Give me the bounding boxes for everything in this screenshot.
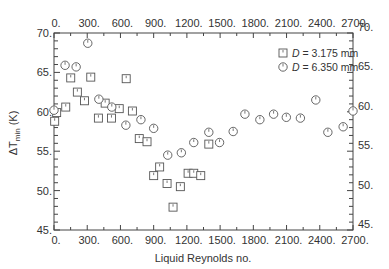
legend-item-circle: D = 6.350 mm <box>279 61 359 73</box>
svg-text:D = 6.350 mm: D = 6.350 mm <box>292 61 358 73</box>
y-tick-label-left: 70. <box>37 27 52 39</box>
y-tick-label-right: 50. <box>358 179 373 191</box>
y-tick-label-right: 60. <box>358 100 373 112</box>
y-tick-label-left: 45. <box>37 224 52 236</box>
x-tick-label-bottom: 1500. <box>208 234 236 246</box>
y-tick-label-right: 45. <box>358 218 373 230</box>
x-tick-label-top: 2100. <box>275 17 303 29</box>
y-axis-title-main: ΔT <box>7 141 19 155</box>
x-axis-title: Liquid Reynolds no. <box>155 252 252 264</box>
x-tick-label-top: 900. <box>145 17 166 29</box>
x-tick-label-top: 0. <box>51 17 60 29</box>
x-tick-label-top: 1200. <box>175 17 203 29</box>
x-tick-label-top: 300. <box>79 17 100 29</box>
x-tick-label-bottom: 2700. <box>341 234 369 246</box>
x-tick-label-bottom: 2100. <box>275 234 303 246</box>
x-tick-label-bottom: 1800. <box>242 234 270 246</box>
y-tick-label-right: 65. <box>358 60 373 72</box>
y-tick-label-left: 50. <box>37 185 52 197</box>
x-tick-label-bottom: 0. <box>51 234 60 246</box>
circle-marker-icon <box>279 63 287 71</box>
y-axis-title: ΔTmin (K) <box>7 111 22 156</box>
x-tick-label-bottom: 2400. <box>308 234 336 246</box>
y-tick-label-left: 55. <box>37 145 52 157</box>
y-tick-label-right: 55. <box>358 139 373 151</box>
x-tick-label-top: 600. <box>112 17 133 29</box>
legend: D = 3.175 mm D = 6.350 mm <box>279 47 359 73</box>
x-tick-label-top: 1500. <box>208 17 236 29</box>
x-tick-label-bottom: 900. <box>145 234 166 246</box>
x-tick-label-bottom: 600. <box>112 234 133 246</box>
x-tick-label-top: 1800. <box>242 17 270 29</box>
legend-item-square: D = 3.175 mm <box>279 47 358 59</box>
x-tick-label-bottom: 300. <box>79 234 100 246</box>
scatter-chart: 0.0.300.300.600.600.900.900.1200.1200.15… <box>0 0 389 269</box>
svg-text:D = 3.175 mm: D = 3.175 mm <box>292 47 358 59</box>
y-axis-title-unit: (K) <box>7 111 19 129</box>
y-axis-title-sub: min <box>13 128 22 141</box>
legend-label-1: = 6.350 mm <box>300 61 359 73</box>
x-tick-label-top: 2400. <box>308 17 336 29</box>
x-tick-label-bottom: 1200. <box>175 234 203 246</box>
y-tick-label-left: 65. <box>37 66 52 78</box>
legend-label-0: = 3.175 mm <box>300 47 359 59</box>
square-marker-icon <box>279 49 287 57</box>
y-tick-label-right: 70. <box>358 21 373 33</box>
